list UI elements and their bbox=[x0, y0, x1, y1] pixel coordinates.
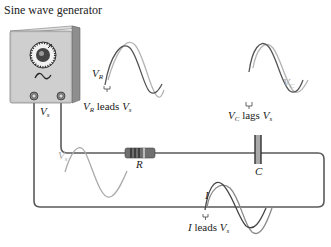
sine-wave-generator bbox=[10, 26, 80, 103]
vr-waveform bbox=[105, 42, 164, 97]
rc-circuit-diagram: Sine wave generator Vs VR VR leads Vs VC… bbox=[0, 0, 331, 247]
vc-phase-marker-icon bbox=[246, 102, 252, 109]
circuit-wires bbox=[34, 98, 324, 207]
circuit-drawing bbox=[0, 0, 331, 247]
capacitor-label: C bbox=[255, 166, 262, 177]
i-leads-vs-label: I leads Vs bbox=[188, 222, 229, 235]
vr-wave-label: VR bbox=[92, 68, 103, 81]
capacitor bbox=[255, 135, 261, 164]
vc-waveform bbox=[249, 44, 308, 93]
vc-lags-vs-label: VC lags Vs bbox=[228, 110, 272, 123]
vc-wave-label: VC bbox=[283, 77, 294, 90]
terminal-right bbox=[57, 92, 65, 100]
vr-phase-marker-icon bbox=[104, 86, 110, 92]
vs-wave-label: Vs bbox=[58, 150, 67, 163]
generator-title: Sine wave generator bbox=[4, 4, 102, 16]
frequency-dial-icon bbox=[30, 42, 56, 68]
vr-leads-vs-label: VR leads Vs bbox=[83, 101, 132, 114]
i-phase-marker-icon bbox=[203, 214, 208, 220]
resistor bbox=[125, 148, 155, 158]
vs-source-label: Vs bbox=[40, 106, 49, 119]
current-wave-label: I bbox=[205, 190, 209, 201]
resistor-label: R bbox=[136, 159, 143, 170]
terminal-left bbox=[30, 92, 38, 100]
vs-waveform bbox=[65, 148, 127, 198]
